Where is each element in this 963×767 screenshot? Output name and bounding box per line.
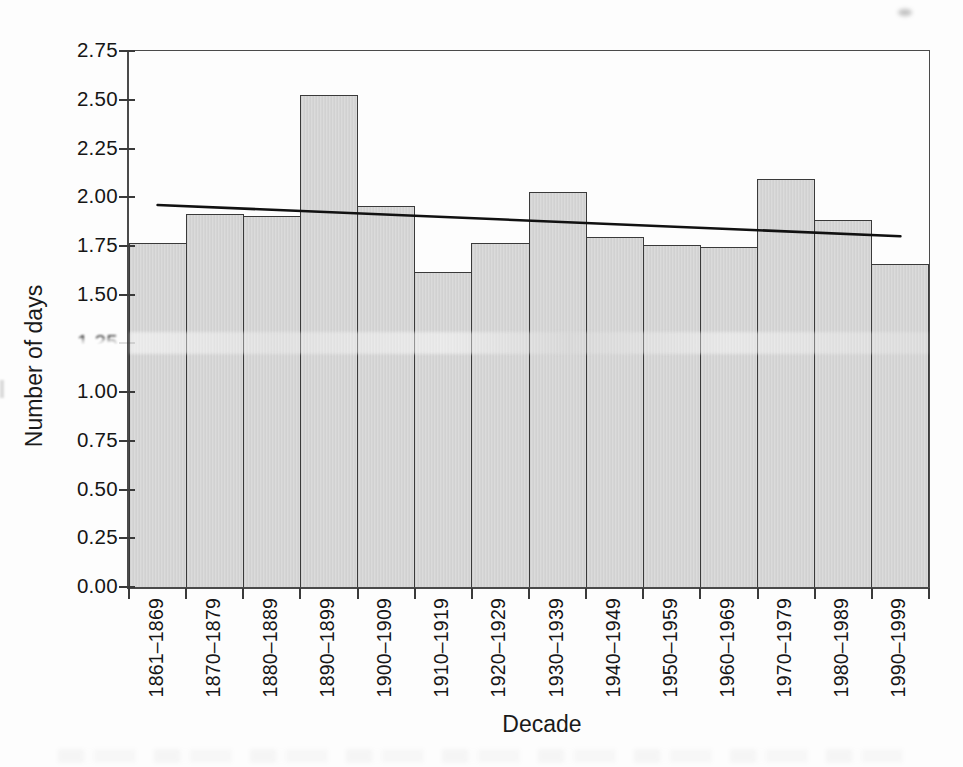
plot-area: [127, 50, 930, 589]
y-axis-tick: [119, 50, 135, 52]
y-axis-tick-label: 1.50: [58, 282, 118, 306]
y-axis-tick-label: 1.00: [58, 379, 118, 403]
x-axis-tick: [814, 588, 816, 599]
x-axis-tick: [642, 588, 644, 599]
y-axis-tick: [119, 489, 135, 491]
x-axis-tick: [928, 588, 930, 599]
x-axis-tick: [414, 588, 416, 599]
y-axis-tick: [119, 537, 135, 539]
y-axis-tick: [119, 196, 135, 198]
x-axis-tick: [299, 588, 301, 599]
x-axis-tick-label: 1910–1919: [430, 598, 452, 718]
y-axis-tick-label: 1.25: [58, 330, 118, 354]
x-axis-tick-label: 1970–1979: [773, 598, 795, 718]
y-axis-tick: [119, 586, 135, 588]
y-axis-tick-label: 2.75: [58, 38, 118, 62]
x-axis-tick-label: 1950–1959: [659, 598, 681, 718]
x-axis-tick: [471, 588, 473, 599]
x-axis-tick-label: 1960–1969: [716, 598, 738, 718]
y-axis-tick-label: 2.00: [58, 184, 118, 208]
x-axis-tick-label: 1940–1949: [602, 598, 624, 718]
y-axis-tick-label: 2.50: [58, 87, 118, 111]
x-axis-tick-label: 1870–1879: [202, 598, 224, 718]
x-axis-tick-label: 1990–1999: [887, 598, 909, 718]
x-axis-tick: [757, 588, 759, 599]
y-axis-tick: [119, 391, 135, 393]
y-axis-tick-label: 0.75: [58, 428, 118, 452]
y-axis-tick-label: 0.00: [58, 574, 118, 598]
x-axis-tick-label: 1920–1929: [487, 598, 509, 718]
x-axis-tick: [242, 588, 244, 599]
x-axis-tick: [699, 588, 701, 599]
x-axis-tick: [185, 588, 187, 599]
x-axis-tick: [871, 588, 873, 599]
y-axis-title: Number of days: [21, 229, 47, 503]
trend-line: [129, 51, 929, 587]
y-axis-tick-label: 0.25: [58, 525, 118, 549]
y-axis-tick-label: 0.50: [58, 477, 118, 501]
x-axis-tick: [357, 588, 359, 599]
y-axis-tick: [119, 440, 135, 442]
x-axis-tick-label: 1980–1989: [830, 598, 852, 718]
x-axis-tick-label: 1900–1909: [373, 598, 395, 718]
x-axis-tick: [585, 588, 587, 599]
x-axis-tick-label: 1861–1869: [145, 598, 167, 718]
x-axis-tick-label: 1890–1899: [316, 598, 338, 718]
x-axis-tick-label: 1930–1939: [545, 598, 567, 718]
x-axis-tick: [528, 588, 530, 599]
scan-corner-smudge-artifact: [898, 9, 912, 16]
y-axis-tick: [119, 99, 135, 101]
x-axis-tick: [128, 588, 130, 599]
x-axis-tick-label: 1880–1889: [259, 598, 281, 718]
scanned-bar-chart-figure: Number of days Decade 0.000.250.500.751.…: [0, 0, 963, 767]
y-axis-tick-label: 2.25: [58, 136, 118, 160]
scan-ghost-caption-artifact: [58, 749, 903, 763]
y-axis-tick: [119, 342, 135, 344]
y-axis-tick: [119, 148, 135, 150]
y-axis-tick: [119, 245, 135, 247]
y-axis-tick-label: 1.75: [58, 233, 118, 257]
y-axis-tick: [119, 294, 135, 296]
scan-edge-smudge-artifact: [0, 380, 4, 398]
